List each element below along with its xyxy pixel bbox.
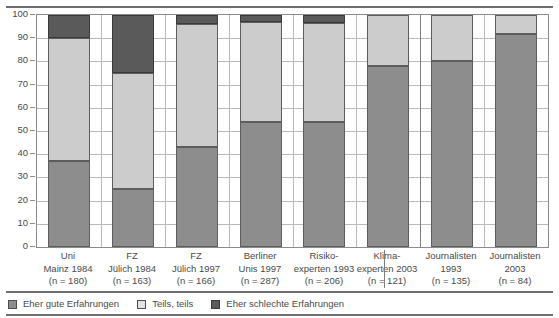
x-axis-label-line: (n = 121) (355, 275, 419, 288)
bar-segment-mid (367, 15, 409, 66)
y-axis-tick (30, 223, 35, 224)
y-axis-tick (30, 130, 35, 131)
x-axis-label-line: Mainz 1984 (36, 263, 100, 276)
x-axis-label-line: Klima- (355, 250, 419, 263)
bar-segment-bad (240, 15, 282, 22)
x-axis-label: FZJülich 1984(n = 163) (100, 250, 164, 288)
x-axis-label-line: Berliner (228, 250, 292, 263)
bar-segment-good (495, 34, 537, 247)
x-axis-label-line: experten 1993 (292, 263, 356, 276)
bar-segment-bad (112, 15, 154, 73)
gridline-vertical (356, 15, 357, 247)
legend-label: Eher schlechte Erfahrungen (226, 299, 344, 309)
x-axis-label: UniMainz 1984(n = 180) (36, 250, 100, 288)
bar-segment-good (431, 61, 473, 247)
y-axis-tick-label: 90 (0, 32, 28, 41)
x-axis-label-line: (n = 84) (483, 275, 547, 288)
y-axis-tick (30, 107, 35, 108)
x-axis-label-line: (n = 166) (164, 275, 228, 288)
y-axis-tick-label: 40 (0, 148, 28, 157)
x-axis-label-line: (n = 135) (419, 275, 483, 288)
bar-segment-good (112, 189, 154, 247)
bar-segment-bad (176, 15, 218, 24)
x-axis-label-line: Uni (36, 250, 100, 263)
gridline-vertical (101, 15, 102, 247)
legend-swatch-good (8, 300, 17, 309)
bar-column (303, 15, 345, 247)
x-axis-label-line: Jülich 1984 (100, 263, 164, 276)
y-axis-tick-label: 20 (0, 195, 28, 204)
bar-segment-good (48, 161, 90, 247)
y-axis-tick-label: 10 (0, 218, 28, 227)
gridline-vertical (293, 15, 294, 247)
legend-item: Eher gute Erfahrungen (8, 299, 119, 309)
y-axis-tick (30, 14, 35, 15)
x-axis-label-line: 1993 (419, 263, 483, 276)
bar-column (48, 15, 90, 247)
bar-column (495, 15, 537, 247)
bottom-rule (6, 314, 553, 316)
y-axis-tick (30, 60, 35, 61)
bar-segment-bad (48, 15, 90, 38)
x-axis-label-line: Journalisten (483, 250, 547, 263)
bar-segment-mid (495, 15, 537, 34)
x-axis-labels: UniMainz 1984(n = 180)FZJülich 1984(n = … (36, 250, 549, 290)
x-axis-label-line: FZ (100, 250, 164, 263)
y-axis-tick (30, 153, 35, 154)
x-axis-label: BerlinerUnis 1997(n = 287) (228, 250, 292, 288)
plot-area (36, 14, 549, 248)
y-axis-tick (30, 37, 35, 38)
legend-item: Eher schlechte Erfahrungen (211, 299, 344, 309)
bar-column (240, 15, 282, 247)
group-separator-line (420, 15, 421, 247)
y-axis-tick (30, 200, 35, 201)
x-axis-label-line: Jülich 1997 (164, 263, 228, 276)
x-axis-label-line: Unis 1997 (228, 263, 292, 276)
bar-segment-bad (303, 15, 345, 23)
y-axis-tick-label: 80 (0, 55, 28, 64)
x-axis-label-line: Risiko- (292, 250, 356, 263)
legend-top-rule (6, 291, 553, 293)
y-axis-tick-label: 100 (0, 9, 28, 18)
y-axis-tick (30, 246, 35, 247)
x-axis-group-separator (384, 250, 385, 288)
bar-segment-good (367, 66, 409, 247)
gridline-vertical (165, 15, 166, 247)
gridline-vertical (229, 15, 230, 247)
x-axis-label: Journalisten2003(n = 84) (483, 250, 547, 288)
bar-segment-good (303, 122, 345, 247)
bar-segment-mid (48, 38, 90, 161)
x-axis-label: Risiko-experten 1993(n = 206) (292, 250, 356, 288)
legend-label: Teils, teils (152, 299, 193, 309)
x-axis-label: FZJülich 1997(n = 166) (164, 250, 228, 288)
x-axis-label-line: (n = 163) (100, 275, 164, 288)
y-axis-tick-label: 60 (0, 102, 28, 111)
x-axis-label-line: FZ (164, 250, 228, 263)
legend-label: Eher gute Erfahrungen (23, 299, 119, 309)
y-axis-tick-label: 50 (0, 125, 28, 134)
y-axis-tick-label: 0 (0, 241, 28, 250)
x-axis-label-line: Journalisten (419, 250, 483, 263)
chart-figure: UniMainz 1984(n = 180)FZJülich 1984(n = … (0, 0, 559, 318)
legend-item: Teils, teils (137, 299, 193, 309)
bar-column (176, 15, 218, 247)
x-axis-label-line: (n = 180) (36, 275, 100, 288)
x-axis-label: Journalisten1993(n = 135) (419, 250, 483, 288)
x-axis-label-line: experten 2003 (355, 263, 419, 276)
y-axis-tick (30, 84, 35, 85)
bar-column (112, 15, 154, 247)
legend-swatch-mid (137, 300, 146, 309)
bar-column (431, 15, 473, 247)
x-axis-label-line: (n = 206) (292, 275, 356, 288)
legend-swatch-bad (211, 300, 220, 309)
y-axis-tick (30, 176, 35, 177)
gridline-vertical (484, 15, 485, 247)
y-axis-tick-label: 70 (0, 79, 28, 88)
bar-segment-mid (431, 15, 473, 61)
x-axis-label-line: (n = 287) (228, 275, 292, 288)
bar-segment-mid (176, 24, 218, 147)
y-axis-tick-label: 30 (0, 171, 28, 180)
bar-segment-mid (303, 23, 345, 122)
bar-segment-mid (112, 73, 154, 189)
x-axis-label-line: 2003 (483, 263, 547, 276)
